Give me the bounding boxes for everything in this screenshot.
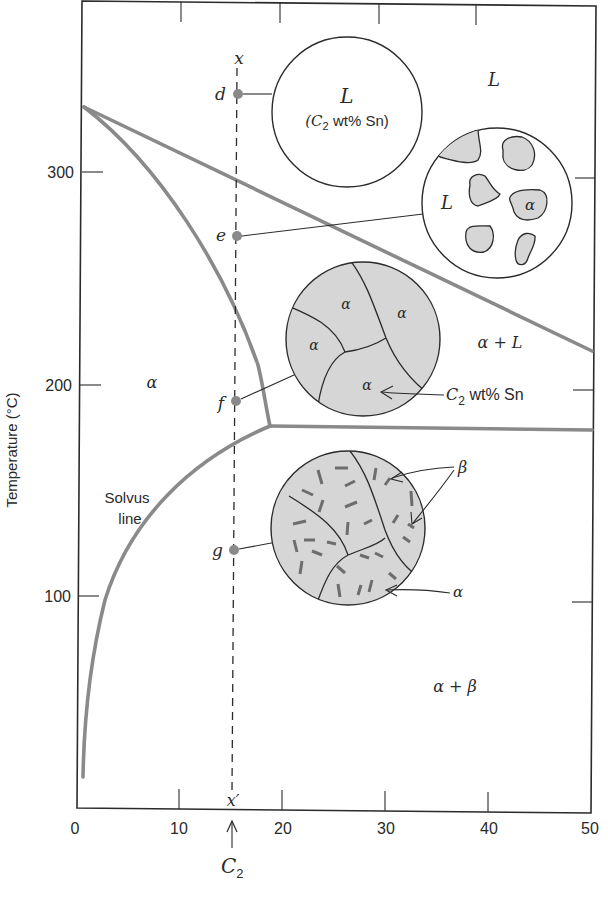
- micro-e-alpha-label: α: [525, 196, 535, 214]
- micro-f-grain-3: α: [309, 337, 319, 353]
- micro-g-alpha-label: α: [453, 583, 463, 601]
- point-g-marker: [229, 545, 239, 555]
- x-tick-20: 20: [274, 820, 292, 837]
- micro-f-grain-1: α: [341, 296, 351, 312]
- solvus-label-line2: line: [118, 510, 141, 527]
- x-axis-labels: 0 10 20 30 40 50: [71, 820, 599, 837]
- region-alpha-beta-label: α + β: [433, 677, 477, 696]
- x-tick-40: 40: [480, 820, 498, 837]
- microstructure-g: β α: [239, 451, 467, 605]
- path-bottom-label: x′: [227, 791, 240, 810]
- micro-g-beta-leader-2: [413, 470, 454, 523]
- svg-text:C2: C2: [221, 854, 244, 881]
- x-tick-10: 10: [170, 820, 188, 837]
- c2-label: C: [221, 854, 236, 878]
- micro-f-annotation-prefix: C: [446, 385, 458, 404]
- point-d-marker: [233, 89, 243, 99]
- svg-text:C2 wt% Sn: C2 wt% Sn: [446, 385, 524, 408]
- micro-f-annotation-suffix: wt% Sn: [465, 386, 524, 403]
- point-g-label: g: [212, 540, 223, 560]
- y-axis-labels: 300 200 100: [44, 164, 74, 605]
- region-alpha-liquid-label: α + L: [477, 333, 522, 352]
- point-d-label: d: [215, 84, 226, 104]
- composition-path-line: [232, 68, 237, 790]
- x-tick-50: 50: [581, 820, 599, 837]
- path-points: d e f g: [212, 84, 243, 560]
- y-axis-title: Temperature (°C): [3, 392, 20, 507]
- c2-subscript: 2: [236, 866, 243, 881]
- microstructure-d: L (C2 wt% Sn): [243, 37, 422, 187]
- y-tick-100: 100: [44, 588, 71, 605]
- micro-d-comp-prefix: (C: [305, 112, 323, 130]
- solidus-line: [84, 107, 270, 426]
- micro-d-comp-suffix: wt% Sn): [329, 112, 389, 129]
- y-tick-200: 200: [45, 377, 72, 394]
- leader-e: [242, 214, 423, 236]
- eutectic-line: [270, 426, 592, 430]
- point-f-marker: [231, 396, 241, 406]
- region-alpha-label: α: [147, 373, 158, 392]
- micro-e-liquid-label: L: [440, 192, 453, 213]
- phase-diagram-figure: 0 10 20 30 40 50 300 200 100 Temperature…: [0, 0, 608, 899]
- solvus-label-line1: Solvus: [104, 489, 149, 506]
- micro-d-phase-label: L: [339, 84, 353, 108]
- region-liquid-label: L: [487, 69, 500, 90]
- point-f-label: f: [216, 393, 227, 413]
- x-tick-30: 30: [377, 820, 395, 837]
- leader-f: [241, 375, 294, 399]
- micro-g-beta-label: β: [457, 458, 467, 477]
- point-e-label: e: [216, 225, 226, 245]
- x-tick-0: 0: [71, 820, 80, 837]
- solvus-line: [83, 426, 270, 777]
- micro-g-alpha-leader: [386, 590, 450, 593]
- point-e-marker: [232, 231, 242, 241]
- path-top-label: x: [234, 48, 244, 68]
- micro-f-grain-2: α: [397, 305, 407, 321]
- y-tick-300: 300: [47, 164, 74, 181]
- c2-marker: C2: [221, 821, 244, 881]
- micro-f-grain-4: α: [362, 377, 372, 393]
